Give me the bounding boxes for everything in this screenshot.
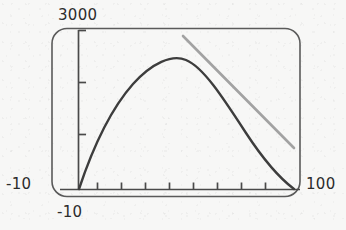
tangent-line bbox=[183, 36, 294, 148]
x-min-label: -10 bbox=[57, 205, 82, 220]
screen-frame bbox=[52, 29, 300, 197]
x-max-label: 100 bbox=[306, 177, 336, 192]
x-axis-ticks bbox=[98, 183, 266, 190]
figure-root: 3000 -10 -10 100 bbox=[0, 0, 346, 230]
y-min-label: -10 bbox=[6, 177, 31, 192]
y-max-label: 3000 bbox=[58, 8, 97, 23]
y-axis-ticks bbox=[79, 31, 87, 135]
parabola-curve bbox=[79, 58, 294, 189]
calculator-screen bbox=[0, 0, 346, 230]
